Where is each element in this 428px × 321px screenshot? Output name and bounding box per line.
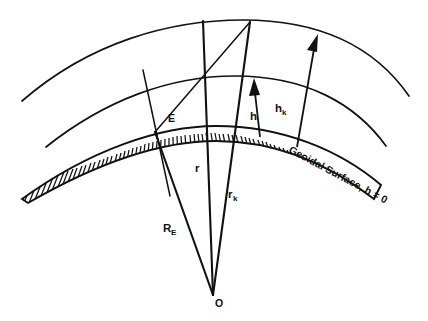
label-elevation-angle: E (168, 112, 175, 124)
h-arrow-head (249, 78, 260, 96)
radial-lines (155, 21, 250, 295)
outer-upper-arc (22, 20, 409, 101)
label-earth-radius: R E (163, 222, 177, 237)
radius-RE-line (155, 132, 213, 295)
radius-r-line (203, 21, 213, 295)
radius-rk-line (213, 22, 250, 295)
label-geoidal-surface: Geoidal Surface, h = 0 (287, 143, 390, 205)
label-height-hk-sub: k (282, 108, 287, 117)
hk-arrow-shaft (297, 49, 314, 147)
hk-arrow-head (307, 34, 318, 52)
geoid-hatching (14, 133, 384, 236)
geoid-diagram: E h h k r r k R E O Geoidal Surface, h =… (0, 0, 428, 321)
label-height-h: h (250, 110, 257, 122)
label-radius-rk: r k (228, 188, 238, 203)
label-earth-radius-sub: E (171, 228, 177, 237)
geoidal-band (14, 126, 384, 236)
diagram-canvas: E h h k r r k R E O Geoidal Surface, h =… (0, 0, 428, 321)
label-height-hk-main: h (275, 102, 282, 114)
label-height-hk: h k (275, 102, 287, 117)
label-radius-r: r (195, 162, 200, 174)
label-radius-rk-sub: k (233, 194, 238, 203)
label-origin: O (215, 297, 223, 309)
